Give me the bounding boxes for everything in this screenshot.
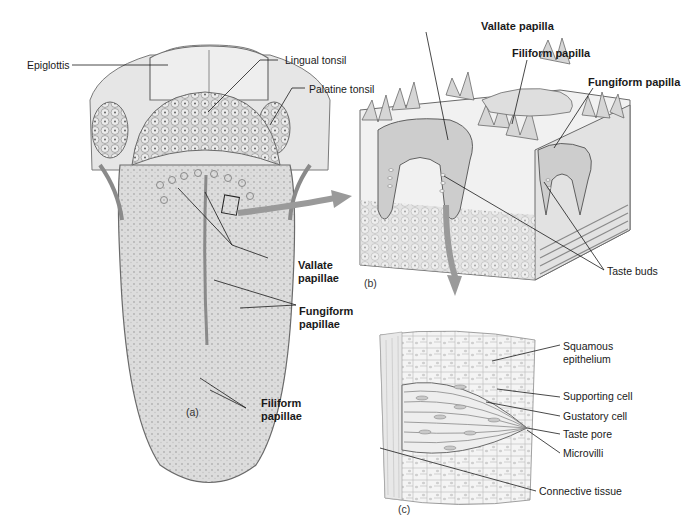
panel-c-taste-bud — [380, 331, 560, 505]
panel-b-tissue-block — [360, 32, 630, 296]
label-filiform-papilla: Filiform papilla — [512, 47, 590, 59]
label-palatine-tonsil: Palatine tonsil — [309, 83, 374, 95]
label-lingual-tonsil: Lingual tonsil — [285, 54, 346, 66]
label-gustatory-cell: Gustatory cell — [563, 410, 627, 422]
label-fungiform-papillae-1: Fungiform — [299, 305, 353, 317]
label-taste-buds: Taste buds — [607, 265, 658, 277]
label-vallate-papilla: Vallate papilla — [481, 20, 554, 32]
label-filiform-papillae-1: Filiform — [261, 397, 301, 409]
label-microvilli: Microvilli — [563, 447, 603, 459]
label-fungiform-papillae-2: papillae — [299, 318, 340, 330]
panel-b-tag: (b) — [364, 277, 377, 289]
label-filiform-papillae-2: papillae — [261, 410, 302, 422]
label-taste-pore: Taste pore — [563, 428, 612, 440]
panel-a-tag: (a) — [186, 406, 199, 418]
label-connective-tissue: Connective tissue — [539, 485, 622, 497]
label-supporting-cell: Supporting cell — [563, 390, 632, 402]
label-vallate-papillae-2: papillae — [298, 272, 339, 284]
panel-c-tag: (c) — [398, 503, 410, 515]
palatine-tonsil-left — [92, 102, 128, 158]
label-squamous-1: Squamous — [563, 340, 613, 352]
tongue-anatomy-figure: Epiglottis Lingual tonsil Palatine tonsi… — [0, 0, 692, 522]
label-fungiform-papilla: Fungiform papilla — [588, 76, 680, 88]
label-squamous-2: epithelium — [563, 353, 611, 365]
label-vallate-papillae-1: Vallate — [298, 259, 333, 271]
label-epiglottis: Epiglottis — [27, 59, 70, 71]
